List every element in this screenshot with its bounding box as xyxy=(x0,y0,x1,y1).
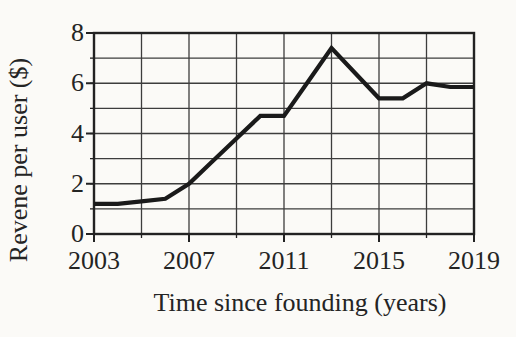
y-tick-label: 4 xyxy=(40,121,84,147)
x-axis-title-text: Time since founding (years) xyxy=(154,288,447,318)
y-axis-title-text: Revene per user ($) xyxy=(4,58,34,262)
y-tick-label: 2 xyxy=(40,171,84,197)
x-tick-label: 2003 xyxy=(49,248,139,274)
y-tick-label: 8 xyxy=(40,20,84,46)
y-tick-label: 6 xyxy=(40,70,84,96)
x-tick-label: 2019 xyxy=(429,248,516,274)
x-tick-label: 2015 xyxy=(334,248,424,274)
chart-figure: Revene per user ($) Time since founding … xyxy=(0,0,516,337)
y-tick-label: 0 xyxy=(40,221,84,247)
x-tick-label: 2007 xyxy=(144,248,234,274)
x-tick-label: 2011 xyxy=(239,248,329,274)
